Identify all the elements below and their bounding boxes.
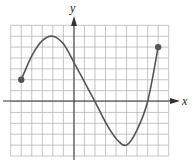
function-graph: x y bbox=[0, 0, 193, 166]
y-axis-arrow-icon bbox=[71, 16, 77, 26]
x-axis-label: x bbox=[181, 94, 188, 108]
y-axis-label: y bbox=[69, 1, 76, 15]
endpoint-dot bbox=[18, 77, 24, 83]
endpoint-dot bbox=[155, 44, 161, 50]
axes: x y bbox=[3, 1, 188, 160]
x-axis-arrow-icon bbox=[170, 98, 180, 104]
endpoints bbox=[18, 44, 161, 83]
